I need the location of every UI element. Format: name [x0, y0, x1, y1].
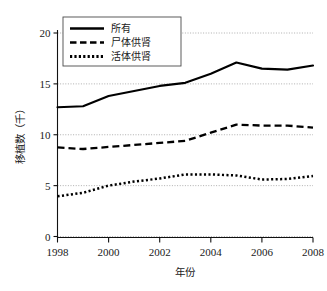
y-tick-group: 05101520	[40, 27, 58, 243]
x-axis: 199820002002200420062008	[47, 238, 325, 258]
y-axis-title: 移植数（千）	[14, 104, 26, 164]
transplant-line-chart-figure: 05101520 199820002002200420062008 所有 尸体供…	[0, 0, 327, 291]
data-series-group	[58, 63, 314, 197]
chart-canvas: 05101520 199820002002200420062008 所有 尸体供…	[0, 0, 327, 291]
y-tick-label: 5	[45, 180, 51, 192]
y-tick-label: 10	[40, 129, 52, 141]
series-line-cadaver-donor	[58, 125, 314, 149]
y-tick-label: 15	[40, 78, 52, 90]
x-axis-title: 年份	[175, 266, 196, 278]
y-tick-label: 0	[45, 231, 51, 243]
x-tick-group: 199820002002200420062008	[47, 238, 325, 258]
x-tick-label: 1998	[47, 246, 70, 258]
legend-label-all: 所有	[111, 22, 131, 34]
legend-label-living-donor: 活体供肾	[111, 50, 151, 62]
legend: 所有 尸体供肾 活体供肾	[63, 17, 181, 66]
y-axis: 05101520	[40, 27, 58, 243]
x-tick-label: 2008	[302, 246, 325, 258]
x-tick-label: 2002	[149, 246, 171, 258]
x-tick-label: 2000	[98, 246, 121, 258]
legend-label-cadaver-donor: 尸体供肾	[111, 36, 151, 48]
y-tick-label: 20	[40, 27, 52, 39]
series-line-all	[58, 63, 314, 108]
x-tick-label: 2004	[200, 246, 223, 258]
x-tick-label: 2006	[251, 246, 274, 258]
